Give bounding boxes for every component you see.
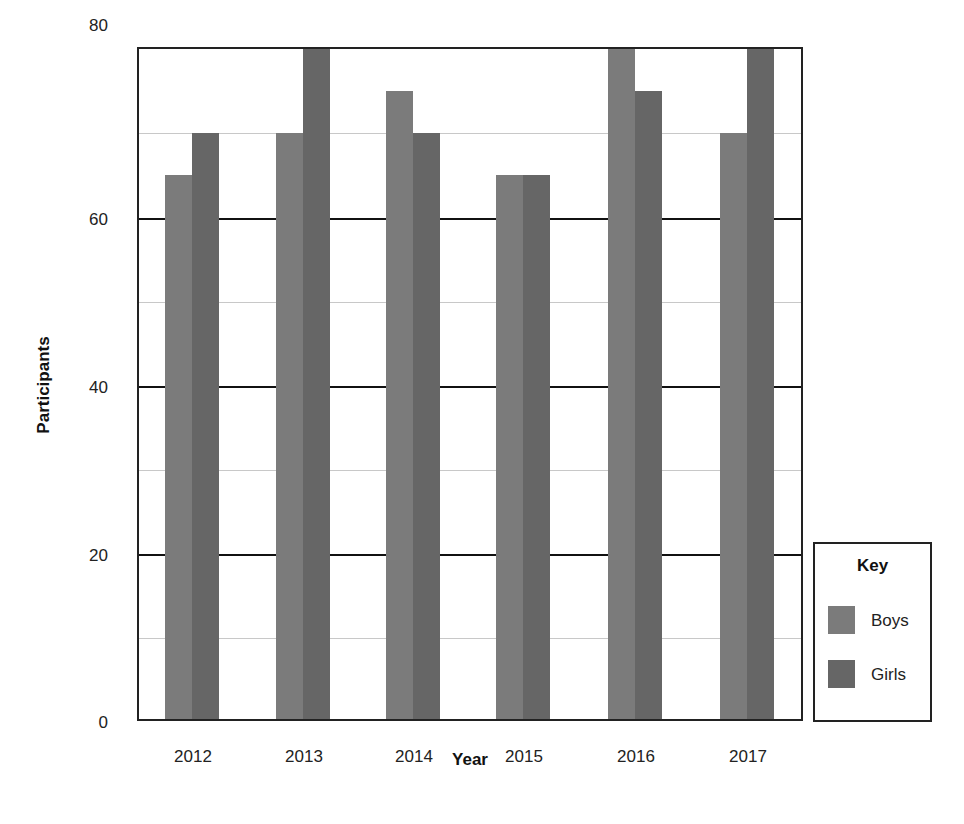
bar-boys-2013: [276, 133, 303, 719]
bar-boys-2012: [165, 175, 192, 719]
legend-swatch-girls: [828, 660, 855, 688]
gridline-70: [139, 133, 801, 134]
bar-boys-2017: [720, 133, 747, 719]
bar-girls-2015: [523, 175, 550, 719]
gridline-50: [139, 302, 801, 303]
bar-girls-2016: [635, 91, 662, 719]
bar-girls-2017: [747, 49, 774, 719]
gridline-10: [139, 638, 801, 639]
legend-item-girls: Girls: [828, 660, 928, 690]
y-axis-label: Participants: [34, 336, 54, 433]
x-tick-2012: 2012: [153, 747, 233, 767]
x-axis-label: Year: [430, 750, 510, 770]
y-tick-40: 40: [68, 378, 108, 398]
plot-area: [137, 47, 803, 721]
legend-title: Key: [815, 556, 930, 576]
y-tick-0: 0: [68, 713, 108, 733]
legend-label-boys: Boys: [871, 611, 909, 631]
legend-swatch-boys: [828, 606, 855, 634]
gridline-30: [139, 470, 801, 471]
gridline-40: [139, 386, 801, 388]
legend: Key Boys Girls: [813, 542, 932, 722]
y-tick-80: 80: [68, 16, 108, 36]
legend-item-boys: Boys: [828, 606, 928, 636]
bar-girls-2013: [303, 49, 330, 719]
x-tick-2013: 2013: [264, 747, 344, 767]
bar-boys-2016: [608, 49, 635, 719]
x-tick-2016: 2016: [596, 747, 676, 767]
bar-boys-2014: [386, 91, 413, 719]
y-tick-20: 20: [68, 546, 108, 566]
bar-boys-2015: [496, 175, 523, 719]
bar-girls-2012: [192, 133, 219, 719]
bar-girls-2014: [413, 133, 440, 719]
gridline-20: [139, 554, 801, 556]
legend-label-girls: Girls: [871, 665, 906, 685]
gridline-60: [139, 218, 801, 220]
y-tick-60: 60: [68, 210, 108, 230]
x-tick-2017: 2017: [708, 747, 788, 767]
